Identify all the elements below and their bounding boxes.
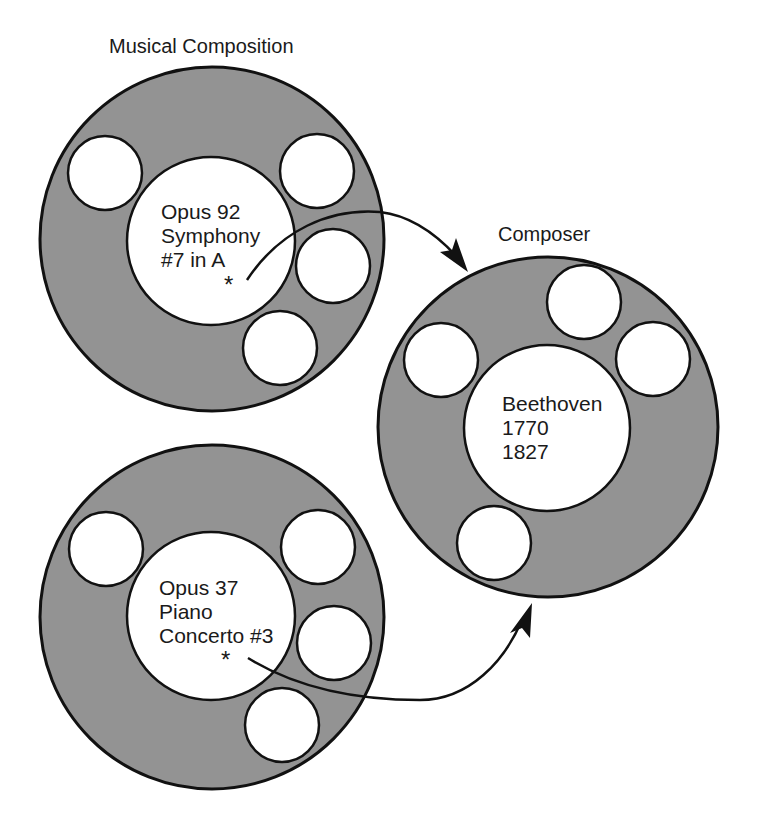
composer-name: Beethoven — [502, 392, 602, 415]
composition-line-1: Opus 92 — [161, 200, 240, 223]
composer-birth-year: 1770 — [502, 416, 549, 439]
composition-line-2: Piano — [159, 600, 213, 623]
composition-line-3: Concerto #3 — [159, 624, 273, 647]
empty-slot-circle — [281, 510, 355, 584]
empty-slot-circle — [68, 136, 142, 210]
empty-slot-circle — [547, 265, 621, 339]
composition-line-1: Opus 37 — [159, 576, 238, 599]
composition-object-opus-37: Opus 37 Piano Concerto #3 * — [40, 445, 384, 789]
empty-slot-circle — [616, 322, 690, 396]
composer-death-year: 1827 — [502, 440, 549, 463]
empty-slot-circle — [404, 323, 478, 397]
composition-object-opus-92: Musical Composition Opus 92 Symphony #7 … — [40, 35, 384, 411]
empty-slot-circle — [296, 229, 370, 303]
composer-object-beethoven: Composer Beethoven 1770 1827 — [378, 223, 718, 597]
composition-line-2: Symphony — [161, 224, 261, 247]
composition-line-3: #7 in A — [161, 248, 225, 271]
pointer-asterisk: * — [221, 646, 230, 673]
object-reference-diagram: Musical Composition Opus 92 Symphony #7 … — [0, 0, 759, 828]
empty-slot-circle — [243, 311, 317, 385]
empty-slot-circle — [245, 688, 319, 762]
arrowhead-icon — [510, 603, 532, 638]
musical-composition-label: Musical Composition — [109, 35, 294, 57]
pointer-asterisk: * — [224, 271, 233, 298]
empty-slot-circle — [297, 606, 371, 680]
empty-slot-circle — [280, 134, 354, 208]
empty-slot-circle — [457, 506, 531, 580]
empty-slot-circle — [69, 512, 143, 586]
composer-label: Composer — [498, 223, 591, 245]
